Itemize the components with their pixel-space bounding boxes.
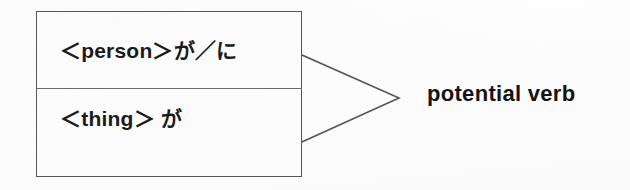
pattern-row-person: ＜person＞が／に xyxy=(36,11,302,88)
pattern-row-thing-label: ＜thing＞ が xyxy=(60,108,182,129)
pattern-row-thing: ＜thing＞ が xyxy=(36,88,302,177)
pattern-row-person-label: ＜person＞が／に xyxy=(60,40,237,61)
converging-bracket-icon xyxy=(296,46,408,152)
result-label: potential verb xyxy=(427,82,575,106)
grammar-pattern-figure: ＜person＞が／に ＜thing＞ が potential verb xyxy=(0,0,630,190)
